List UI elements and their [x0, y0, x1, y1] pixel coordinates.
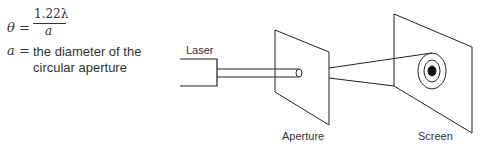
screen-label: Screen [418, 130, 453, 142]
aperture-label: Aperture [282, 130, 324, 142]
aperture-hole [296, 69, 302, 77]
central-spot [428, 66, 436, 76]
laser-label: Laser [186, 44, 214, 56]
diffraction-diagram [0, 0, 483, 146]
laser-body [180, 59, 217, 86]
diverge-top [329, 53, 432, 68]
diverge-bottom [329, 78, 394, 86]
